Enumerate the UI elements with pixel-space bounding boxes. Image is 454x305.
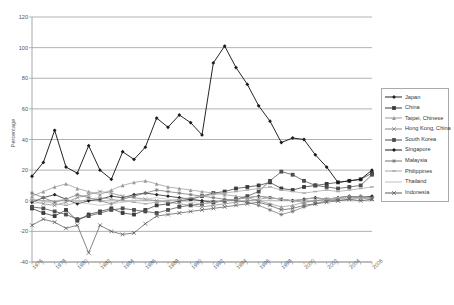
legend-label: China bbox=[405, 105, 420, 111]
data-point-marker bbox=[336, 187, 340, 191]
series-indonesia bbox=[30, 197, 374, 254]
data-point-marker bbox=[392, 117, 396, 121]
data-point-marker bbox=[177, 191, 181, 195]
data-point-marker bbox=[155, 202, 159, 203]
data-point-marker bbox=[64, 208, 68, 212]
data-point-marker bbox=[392, 171, 396, 172]
data-point-marker bbox=[53, 210, 57, 214]
legend-item-south-korea[interactable]: South Korea bbox=[385, 134, 444, 145]
legend-swatch bbox=[385, 125, 402, 134]
legend-item-philippines[interactable]: Philippines bbox=[385, 166, 444, 177]
data-point-marker bbox=[98, 223, 102, 227]
data-point-marker bbox=[336, 191, 340, 192]
data-point-marker bbox=[257, 188, 261, 189]
data-point-marker bbox=[211, 196, 215, 200]
legend-swatch bbox=[385, 114, 402, 123]
legend-swatch bbox=[385, 103, 402, 112]
y-tick-label: 60 bbox=[6, 106, 28, 112]
data-point-marker bbox=[291, 191, 295, 192]
data-point-marker bbox=[268, 179, 272, 183]
legend-label: Singapore bbox=[405, 147, 431, 153]
data-point-marker bbox=[257, 184, 261, 188]
data-point-marker bbox=[325, 189, 329, 190]
y-tick-label: 100 bbox=[6, 45, 28, 51]
data-point-marker bbox=[166, 208, 170, 212]
data-point-marker bbox=[109, 199, 113, 200]
data-point-marker bbox=[166, 190, 170, 194]
legend-item-indonesia[interactable]: Indonesia bbox=[385, 187, 444, 198]
data-point-marker bbox=[359, 184, 363, 188]
data-point-marker bbox=[75, 193, 79, 197]
data-point-marker bbox=[279, 189, 283, 190]
legend-label: Hong Kong, China bbox=[405, 126, 451, 132]
data-point-marker bbox=[359, 188, 363, 189]
legend-item-taipei-chinese[interactable]: Taipei, Chinese bbox=[385, 113, 444, 124]
y-tick-label: 20 bbox=[6, 167, 28, 173]
y-tick-label: 80 bbox=[6, 75, 28, 81]
data-point-marker bbox=[132, 194, 136, 198]
data-point-marker bbox=[245, 189, 249, 190]
data-point-marker bbox=[53, 203, 57, 204]
legend-swatch bbox=[385, 167, 402, 176]
data-point-marker bbox=[41, 211, 45, 215]
data-point-marker bbox=[64, 213, 68, 217]
data-point-marker bbox=[257, 190, 261, 194]
data-point-marker bbox=[98, 197, 102, 198]
data-point-marker bbox=[302, 185, 306, 189]
data-point-marker bbox=[189, 193, 193, 197]
legend-label: Indonesia bbox=[405, 190, 429, 196]
data-point-marker bbox=[132, 208, 136, 212]
data-point-marker bbox=[132, 213, 136, 217]
data-point-marker bbox=[109, 208, 113, 212]
data-point-marker bbox=[41, 190, 45, 194]
data-point-marker bbox=[155, 203, 159, 207]
data-point-marker bbox=[302, 179, 306, 183]
data-point-marker bbox=[234, 187, 238, 191]
data-point-marker bbox=[143, 203, 147, 204]
data-point-marker bbox=[41, 207, 45, 211]
data-point-marker bbox=[98, 199, 102, 203]
data-point-marker bbox=[392, 138, 396, 142]
data-point-marker bbox=[87, 144, 91, 148]
data-point-marker bbox=[189, 203, 193, 207]
series-line bbox=[32, 46, 372, 182]
data-point-marker bbox=[392, 95, 396, 99]
legend-item-hong-kong-china[interactable]: Hong Kong, China bbox=[385, 124, 444, 135]
data-point-marker bbox=[392, 159, 396, 163]
data-point-marker bbox=[53, 214, 57, 218]
data-point-marker bbox=[143, 222, 147, 226]
data-point-marker bbox=[155, 188, 159, 192]
legend-swatch bbox=[385, 178, 402, 187]
y-tick-label: -20 bbox=[6, 228, 28, 234]
legend-label: Philippines bbox=[405, 169, 432, 175]
data-point-marker bbox=[392, 191, 396, 195]
data-point-marker bbox=[155, 193, 159, 197]
legend-item-japan[interactable]: Japan bbox=[385, 92, 444, 103]
chart-legend: JapanChinaTaipei, ChineseHong Kong, Chin… bbox=[381, 88, 449, 202]
legend-label: Japan bbox=[405, 95, 420, 101]
data-point-marker bbox=[75, 217, 79, 221]
y-tick-label: -40 bbox=[6, 259, 28, 265]
y-tick-label: 40 bbox=[6, 137, 28, 143]
data-point-marker bbox=[121, 200, 125, 201]
data-point-marker bbox=[121, 211, 125, 215]
legend-item-singapore[interactable]: Singapore bbox=[385, 145, 444, 156]
data-point-marker bbox=[392, 127, 396, 131]
data-point-marker bbox=[177, 205, 181, 209]
data-point-marker bbox=[121, 207, 125, 211]
legend-item-malaysia[interactable]: Malaysia bbox=[385, 156, 444, 167]
legend-label: South Korea bbox=[405, 137, 436, 143]
legend-item-thailand[interactable]: Thailand bbox=[385, 177, 444, 188]
data-point-marker bbox=[30, 199, 34, 200]
data-point-marker bbox=[166, 194, 170, 198]
data-point-marker bbox=[392, 148, 396, 152]
data-point-marker bbox=[268, 186, 272, 187]
data-point-marker bbox=[41, 200, 45, 201]
legend-item-china[interactable]: China bbox=[385, 103, 444, 114]
data-point-marker bbox=[143, 191, 147, 195]
y-tick-label: 0 bbox=[6, 198, 28, 204]
data-point-marker bbox=[370, 186, 374, 187]
data-point-marker bbox=[291, 173, 295, 177]
data-point-marker bbox=[200, 195, 204, 196]
data-point-marker bbox=[302, 192, 306, 193]
